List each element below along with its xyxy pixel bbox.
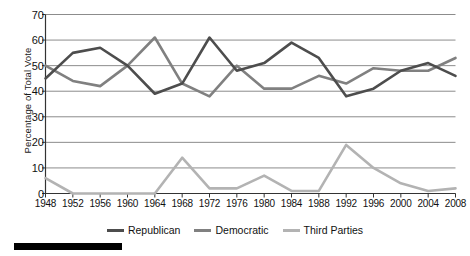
y-tick-label: 70 [32, 9, 44, 21]
x-tick-label: 2008 [445, 198, 466, 209]
legend-item-third-parties[interactable]: Third Parties [283, 224, 364, 236]
y-tick-label: 50 [32, 60, 44, 72]
legend-swatch-icon [194, 229, 211, 232]
y-tick-label: 40 [32, 85, 44, 97]
y-tick-label: 30 [32, 111, 44, 123]
x-tick-label: 1988 [308, 198, 329, 209]
vote-percentage-line-chart: Percentage of Total Vote 010203040506070… [0, 0, 470, 256]
x-tick-label: 1972 [199, 198, 220, 209]
series-lines-group [46, 38, 456, 194]
x-tick-label: 1996 [363, 198, 384, 209]
series-line-third-parties [46, 145, 456, 194]
x-tick-label: 2004 [417, 198, 438, 209]
x-tick-label: 1980 [253, 198, 274, 209]
x-tick-label: 1952 [62, 198, 83, 209]
legend-swatch-icon [107, 229, 124, 232]
x-tick-label: 1964 [144, 198, 165, 209]
legend-label: Democratic [215, 224, 268, 236]
x-tick-label: 1976 [226, 198, 247, 209]
x-tick-label: 1992 [335, 198, 356, 209]
series-line-republican [46, 38, 456, 97]
x-tick-label: 1960 [117, 198, 138, 209]
footer-black-bar [14, 243, 122, 250]
legend-item-democratic[interactable]: Democratic [194, 224, 268, 236]
axis-lines-group [42, 15, 456, 195]
gridlines-group [46, 15, 456, 194]
y-axis-tick-labels: 010203040506070 [18, 0, 44, 256]
legend-item-republican[interactable]: Republican [107, 224, 181, 236]
x-tick-label: 1948 [35, 198, 56, 209]
x-tick-label: 1984 [281, 198, 302, 209]
y-tick-label: 10 [32, 162, 44, 174]
y-tick-label: 20 [32, 136, 44, 148]
x-tick-label: 2000 [390, 198, 411, 209]
legend-swatch-icon [283, 229, 300, 232]
x-tick-label: 1968 [171, 198, 192, 209]
chart-legend: RepublicanDemocraticThird Parties [0, 224, 470, 236]
legend-label: Third Parties [304, 224, 364, 236]
plot-area [0, 0, 470, 256]
x-tick-label: 1956 [89, 198, 110, 209]
legend-label: Republican [128, 224, 181, 236]
y-tick-label: 60 [32, 34, 44, 46]
